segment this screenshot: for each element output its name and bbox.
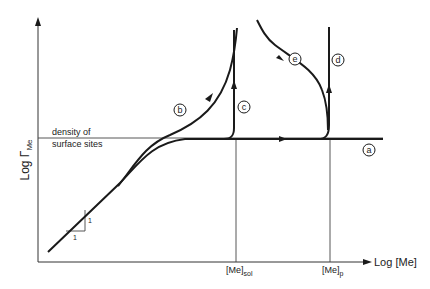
slope-rise-label: 1 — [88, 217, 92, 224]
curve-a — [48, 139, 383, 252]
slope-run-label: 1 — [73, 234, 77, 241]
adsorption-diagram: Log ΓMe Log [Me] density of surface site… — [0, 0, 430, 289]
y-axis-label-sub: Me — [25, 139, 34, 151]
me-p-label: [Me]p — [322, 265, 344, 278]
curve-a-arrow-icon — [279, 136, 287, 142]
svg-text:c: c — [242, 102, 247, 112]
y-axis-label-main: Log Γ — [18, 150, 32, 180]
y-axis-arrow-icon — [35, 17, 41, 26]
x-axis-label: Log [Me] — [374, 256, 417, 268]
x-axis-arrow-icon — [363, 259, 372, 265]
curve-e-arrow-icon — [276, 55, 284, 61]
curve-c-arrow-icon — [231, 80, 237, 89]
curve-b-arrow-icon — [205, 93, 213, 102]
curve-label-d: d — [332, 54, 344, 66]
svg-text:b: b — [177, 105, 182, 115]
y-axis — [35, 17, 41, 262]
y-axis-label: Log ΓMe — [18, 139, 34, 181]
curve-label-b: b — [174, 104, 186, 116]
svg-text:a: a — [366, 145, 371, 155]
curve-e — [257, 20, 328, 130]
curve-label-e: e — [289, 53, 301, 65]
svg-text:d: d — [335, 55, 340, 65]
svg-text:Log ΓMe: Log ΓMe — [18, 139, 34, 181]
svg-text:e: e — [292, 54, 297, 64]
curve-label-c: c — [238, 101, 250, 113]
density-label-line1: density of — [52, 127, 91, 137]
curve-d-arrow-icon — [326, 84, 332, 93]
density-label-line2: surface sites — [52, 139, 103, 149]
me-sol-label: [Me]sol — [226, 265, 253, 277]
curve-label-a: a — [363, 144, 375, 156]
